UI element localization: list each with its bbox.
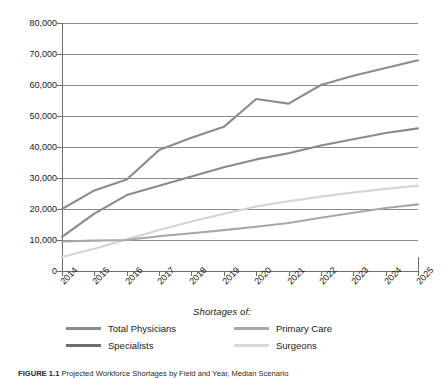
- legend-swatch: [234, 344, 269, 347]
- y-axis-label: 50,000: [3, 112, 57, 121]
- y-axis-label: 60,000: [3, 81, 57, 90]
- legend-entry[interactable]: Total Physicians: [66, 322, 176, 335]
- y-axis-label: 0: [3, 267, 57, 276]
- chart-legend: Shortages of: Total PhysiciansSpecialist…: [0, 306, 444, 352]
- legend-entry[interactable]: Specialists: [66, 339, 153, 352]
- legend-entries: Total PhysiciansSpecialistsPrimary CareS…: [66, 322, 378, 352]
- figure-caption: FIGURE 1.1 Projected Workforce Shortages…: [18, 369, 438, 378]
- legend-label: Primary Care: [276, 324, 332, 334]
- series-line: [62, 60, 418, 209]
- legend-swatch: [66, 327, 101, 330]
- legend-entry[interactable]: Primary Care: [234, 322, 332, 335]
- series-line: [62, 186, 418, 257]
- legend-label: Total Physicians: [108, 324, 176, 334]
- legend-entry[interactable]: Surgeons: [234, 339, 317, 352]
- figure-caption-label: FIGURE 1.1: [18, 369, 59, 378]
- legend-swatch: [66, 344, 101, 347]
- y-axis-label: 10,000: [3, 236, 57, 245]
- y-axis-label: 70,000: [3, 50, 57, 59]
- legend-label: Surgeons: [276, 341, 317, 351]
- y-axis-label: 80,000: [3, 19, 57, 28]
- legend-title: Shortages of:: [0, 306, 444, 317]
- legend-label: Specialists: [108, 341, 153, 351]
- figure-caption-text: Projected Workforce Shortages by Field a…: [61, 369, 288, 378]
- figure-container: 010,00020,00030,00040,00050,00060,00070,…: [0, 0, 444, 378]
- y-axis-label: 40,000: [3, 143, 57, 152]
- y-axis-label: 30,000: [3, 174, 57, 183]
- y-axis-label: 20,000: [3, 205, 57, 214]
- x-axis-right-cap: [418, 257, 419, 272]
- legend-swatch: [234, 327, 269, 330]
- series-lines: [62, 23, 418, 271]
- y-axis-labels: 010,00020,00030,00040,00050,00060,00070,…: [0, 0, 57, 290]
